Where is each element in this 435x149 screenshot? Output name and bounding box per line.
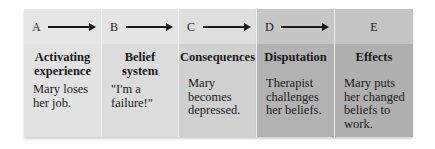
- panel-e-header: E: [335, 9, 413, 44]
- letter-c: C: [187, 20, 199, 35]
- abcde-diagram: A Activating experience Mary loses her j…: [24, 9, 413, 137]
- panel-b-description: "I'm a failure!": [111, 83, 174, 110]
- title-line: system: [102, 64, 178, 78]
- desc-line: work.: [344, 118, 409, 132]
- desc-line: Mary puts: [344, 77, 409, 91]
- desc-line: her changed: [344, 91, 409, 105]
- panel-a-description: Mary loses her job.: [33, 83, 97, 110]
- title-line: Activating: [24, 50, 101, 64]
- arrow-right-icon: [126, 26, 170, 28]
- panel-a-title: Activating experience: [24, 50, 101, 78]
- desc-line: her job.: [33, 97, 97, 111]
- panel-c-body: Consequences Mary becomes depressed.: [179, 44, 256, 137]
- desc-line: depressed.: [188, 104, 252, 118]
- title-line: Belief: [102, 50, 178, 64]
- panel-d: D Disputation Therapist challenges her b…: [257, 9, 335, 137]
- desc-line: Mary loses: [33, 83, 97, 97]
- panel-a: A Activating experience Mary loses her j…: [24, 9, 102, 137]
- panel-b-body: Belief system "I'm a failure!": [102, 44, 178, 137]
- panel-e-body: Effects Mary puts her changed beliefs to…: [335, 44, 413, 137]
- panel-c-title: Consequences: [179, 50, 256, 64]
- panel-d-header: D: [257, 9, 334, 44]
- arrow-right-icon: [203, 26, 248, 28]
- letter-a: A: [32, 20, 44, 35]
- desc-line: "I'm a: [111, 83, 174, 97]
- desc-line: Therapist: [266, 77, 330, 91]
- panel-a-header: A: [24, 9, 101, 44]
- desc-line: her beliefs.: [266, 104, 330, 118]
- desc-line: becomes: [188, 91, 252, 105]
- panel-c-description: Mary becomes depressed.: [188, 77, 252, 118]
- panel-e: E Effects Mary puts her changed beliefs …: [335, 9, 413, 137]
- panel-c: C Consequences Mary becomes depressed.: [179, 9, 257, 137]
- panel-b-title: Belief system: [102, 50, 178, 78]
- title-line: experience: [24, 64, 101, 78]
- panel-d-description: Therapist challenges her beliefs.: [266, 77, 330, 118]
- panel-d-body: Disputation Therapist challenges her bel…: [257, 44, 334, 137]
- desc-line: Mary: [188, 77, 252, 91]
- arrow-right-icon: [48, 26, 93, 28]
- panel-c-header: C: [179, 9, 256, 44]
- panel-e-description: Mary puts her changed beliefs to work.: [344, 77, 409, 131]
- letter-e: E: [335, 20, 413, 35]
- panel-b-header: B: [102, 9, 178, 44]
- desc-line: challenges: [266, 91, 330, 105]
- arrow-right-icon: [281, 26, 326, 28]
- desc-line: failure!": [111, 97, 174, 111]
- panel-a-body: Activating experience Mary loses her job…: [24, 44, 101, 137]
- panel-b: B Belief system "I'm a failure!": [102, 9, 179, 137]
- desc-line: beliefs to: [344, 104, 409, 118]
- panel-d-title: Disputation: [257, 50, 334, 64]
- letter-d: D: [265, 20, 277, 35]
- panel-e-title: Effects: [335, 50, 413, 64]
- letter-b: B: [110, 20, 122, 35]
